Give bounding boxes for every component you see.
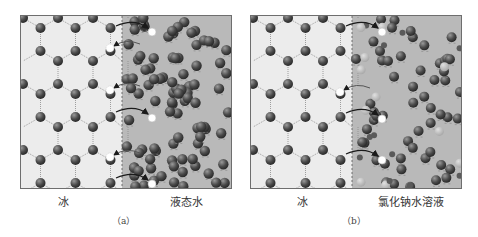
panel-b-caption: （b） — [342, 214, 366, 227]
panel-a-caption: （a） — [112, 214, 135, 227]
panel-b-ice-label: 冰 — [297, 193, 308, 209]
panel-b-solution-label: 氯化钠水溶液 — [378, 193, 444, 209]
ice-saltwater-interface-diagram — [251, 16, 462, 189]
panel-a-liquid-label: 液态水 — [170, 193, 203, 209]
panel-b-ice-nacl-solution — [250, 15, 462, 189]
panel-a-ice-liquid-water — [20, 15, 232, 189]
panel-a-ice-label: 冰 — [58, 193, 69, 209]
ice-water-interface-diagram — [21, 16, 232, 189]
